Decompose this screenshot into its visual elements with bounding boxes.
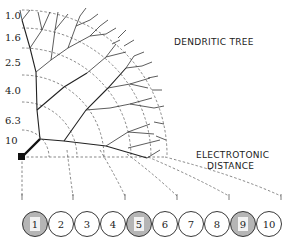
svg-text:10: 10 (263, 219, 276, 230)
axis-tick-1: 1.0 (5, 10, 21, 21)
compartment-5: 5 (127, 212, 152, 237)
svg-text:9: 9 (240, 219, 246, 230)
svg-text:4: 4 (110, 219, 116, 230)
svg-text:1: 1 (32, 219, 38, 230)
compartment-chain: 1 2 3 4 5 6 7 8 (23, 212, 282, 237)
electrotonic-distance-label-2: DISTANCE (207, 161, 254, 171)
svg-text:5: 5 (136, 219, 142, 230)
axis-tick-5: 6.3 (5, 115, 21, 126)
compartment-9: 9 (231, 212, 256, 237)
compartment-7: 7 (179, 212, 204, 237)
compartment-ticks (22, 194, 281, 200)
compartment-1: 1 (23, 212, 48, 237)
electrotonic-distance-label-1: ELECTROTONIC (196, 150, 269, 160)
dendritic-tree-diagram: 1.0 1.6 2.5 4.0 6.3 10 (0, 0, 287, 247)
axis-tick-3: 2.5 (5, 57, 21, 68)
compartment-2: 2 (49, 212, 74, 237)
compartment-4: 4 (101, 212, 126, 237)
dendritic-tree (18, 8, 166, 160)
svg-text:6: 6 (162, 219, 168, 230)
svg-text:2: 2 (58, 219, 64, 230)
compartment-3: 3 (75, 212, 100, 237)
diameter-axis: 1.0 1.6 2.5 4.0 6.3 10 (5, 10, 21, 146)
compartment-6: 6 (153, 212, 178, 237)
axis-tick-4: 4.0 (5, 85, 21, 96)
svg-text:7: 7 (188, 219, 194, 230)
dendritic-tree-label: DENDRITIC TREE (174, 37, 254, 47)
compartment-8: 8 (205, 212, 230, 237)
axis-tick-2: 1.6 (5, 32, 21, 43)
compartment-10: 10 (257, 212, 282, 237)
svg-text:8: 8 (214, 219, 220, 230)
axis-tick-6: 10 (5, 135, 18, 146)
svg-text:3: 3 (84, 219, 90, 230)
